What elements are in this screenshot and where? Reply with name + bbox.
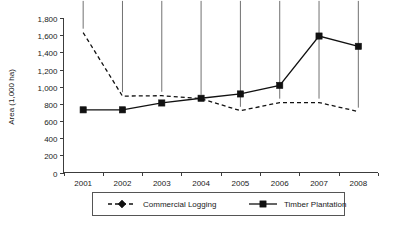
y-tick-label: 1,000 xyxy=(37,84,58,93)
y-tick-label: 1,400 xyxy=(37,49,58,58)
x-tick-label-2008: 2008 xyxy=(349,179,367,188)
square-marker-icon xyxy=(119,107,125,113)
y-tick-label: 200 xyxy=(44,152,58,161)
square-marker-icon xyxy=(237,91,243,97)
legend-label[interactable]: Commercial Logging xyxy=(143,200,216,209)
x-tick-label-2007: 2007 xyxy=(310,179,328,188)
y-axis-title: Area (1,000 ha) xyxy=(7,69,16,125)
square-marker-icon xyxy=(159,100,165,106)
y-tick-label: 800 xyxy=(44,101,58,110)
legend-label[interactable]: Timber Plantation xyxy=(284,200,346,209)
chart-legend: Commercial LoggingTimber Plantation xyxy=(93,193,347,216)
x-tick-label-2002: 2002 xyxy=(114,179,132,188)
y-tick-label: 0 xyxy=(53,170,58,179)
y-tick-label: 1,600 xyxy=(37,32,58,41)
chart-figure: 02004006008001,0001,2001,4001,6001,800 2… xyxy=(0,0,393,234)
y-tick-label: 1,800 xyxy=(37,15,58,24)
square-marker-icon xyxy=(260,201,266,207)
x-tick-label-2006: 2006 xyxy=(271,179,289,188)
square-marker-icon xyxy=(80,107,86,113)
square-marker-icon xyxy=(277,82,283,88)
square-marker-icon xyxy=(198,95,204,101)
square-marker-icon xyxy=(355,43,361,49)
line-chart: 02004006008001,0001,2001,4001,6001,800 2… xyxy=(0,0,393,234)
x-tick-label-2001: 2001 xyxy=(74,179,92,188)
x-tick-label-2003: 2003 xyxy=(153,179,171,188)
y-tick-label: 1,200 xyxy=(37,67,58,76)
square-marker-icon xyxy=(316,33,322,39)
x-tick-label-2005: 2005 xyxy=(232,179,250,188)
y-tick-label: 400 xyxy=(44,135,58,144)
x-tick-label-2004: 2004 xyxy=(192,179,210,188)
y-tick-label: 600 xyxy=(44,118,58,127)
